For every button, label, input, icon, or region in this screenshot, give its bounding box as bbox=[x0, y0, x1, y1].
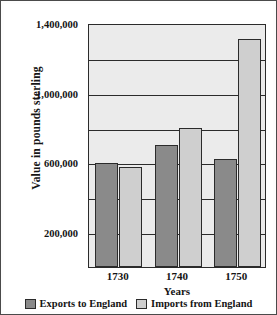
legend-item: Imports from England bbox=[136, 298, 252, 309]
bar-1740-exports bbox=[155, 145, 178, 267]
x-axis-title: Years bbox=[88, 285, 266, 297]
legend-swatch-icon bbox=[25, 299, 36, 309]
legend-label: Imports from England bbox=[151, 298, 252, 309]
y-axis-title: Value in pounds sterling bbox=[30, 48, 42, 208]
x-axis-tick-label: 1750 bbox=[206, 270, 266, 282]
legend-item: Exports to England bbox=[25, 298, 128, 309]
legend-swatch-icon bbox=[136, 299, 147, 309]
plot-area bbox=[88, 24, 266, 268]
y-axis-tick-label: 600,000 bbox=[0, 158, 78, 169]
bar-1750-imports bbox=[238, 39, 261, 267]
chart-page: Value in pounds sterling 1,400,0001,000,… bbox=[0, 0, 277, 315]
x-axis-tick-label: 1730 bbox=[88, 270, 148, 282]
bar-1730-imports bbox=[119, 167, 142, 267]
bar-1730-exports bbox=[95, 163, 118, 267]
y-axis-tick-label: 1,400,000 bbox=[0, 19, 78, 30]
y-axis-tick-label: 200,000 bbox=[0, 228, 78, 239]
bar-series-container bbox=[89, 25, 265, 267]
figure: Value in pounds sterling 1,400,0001,000,… bbox=[4, 4, 273, 311]
bar-1740-imports bbox=[179, 128, 202, 267]
x-axis-tick-label: 1740 bbox=[147, 270, 207, 282]
y-axis-tick-label: 1,000,000 bbox=[0, 88, 78, 99]
bar-1750-exports bbox=[214, 159, 237, 267]
legend: Exports to EnglandImports from England bbox=[4, 298, 273, 309]
legend-label: Exports to England bbox=[40, 298, 128, 309]
